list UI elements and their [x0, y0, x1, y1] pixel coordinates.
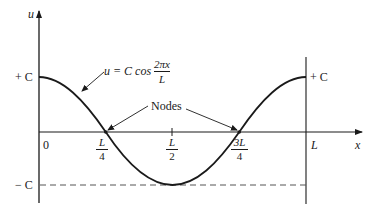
- node-point-three-quarter: [237, 130, 241, 134]
- x-end-label: L: [311, 139, 318, 151]
- equation-leader-arrow: [82, 72, 104, 91]
- tick-label-three-quarter: 3L 4: [231, 137, 248, 162]
- x-axis-label: x: [355, 139, 360, 151]
- tick-label-quarter: L 4: [96, 137, 108, 162]
- wave-diagram-canvas: [0, 0, 378, 216]
- equation-lhs: u = C cos: [104, 64, 151, 79]
- node-arrow-left: [108, 106, 148, 130]
- plus-c-label: + C: [15, 71, 33, 83]
- equation-fraction: 2πx L: [154, 58, 170, 85]
- curve-equation: u = C cos 2πx L: [104, 58, 170, 85]
- y-axis-label: u: [28, 8, 34, 20]
- node-arrow-right: [186, 109, 237, 130]
- tick-label-half: L 2: [166, 137, 178, 162]
- minus-c-label: − C: [15, 179, 33, 191]
- right-plus-c-label: + C: [310, 71, 328, 83]
- nodes-label: Nodes: [151, 100, 182, 112]
- origin-label: 0: [43, 139, 49, 151]
- node-point-quarter: [104, 130, 108, 134]
